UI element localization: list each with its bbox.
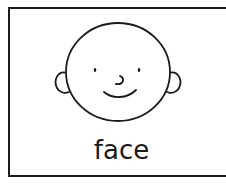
right-eye	[138, 68, 141, 72]
head	[66, 23, 170, 121]
caption-label: face	[0, 135, 226, 165]
left-eye	[94, 68, 97, 72]
